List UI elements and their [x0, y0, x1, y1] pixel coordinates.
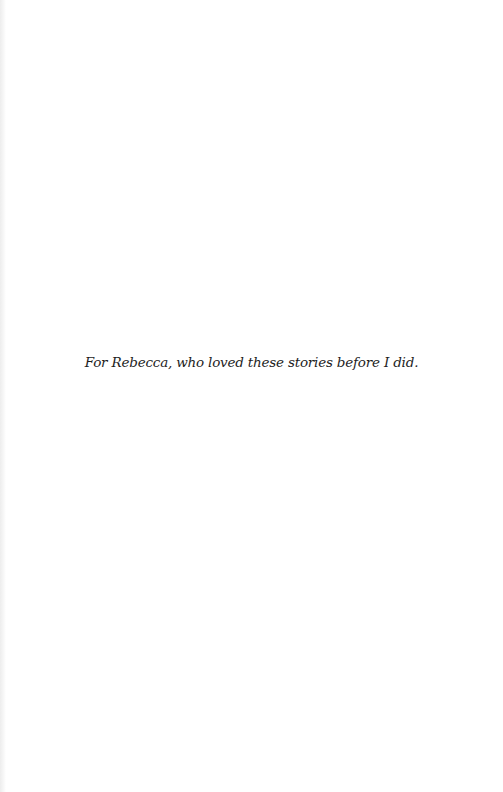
dedication-text: For Rebecca, who loved these stories bef… — [0, 352, 503, 372]
page-scan-edge — [0, 0, 6, 792]
book-page: For Rebecca, who loved these stories bef… — [0, 0, 503, 792]
